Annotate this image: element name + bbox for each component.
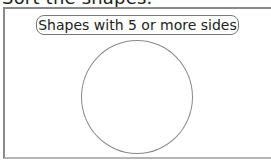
category-label: Shapes with 5 or more sides: [36, 15, 239, 35]
category-label-text: Shapes with 5 or more sides: [38, 17, 237, 33]
circle-shape[interactable]: [81, 40, 193, 154]
